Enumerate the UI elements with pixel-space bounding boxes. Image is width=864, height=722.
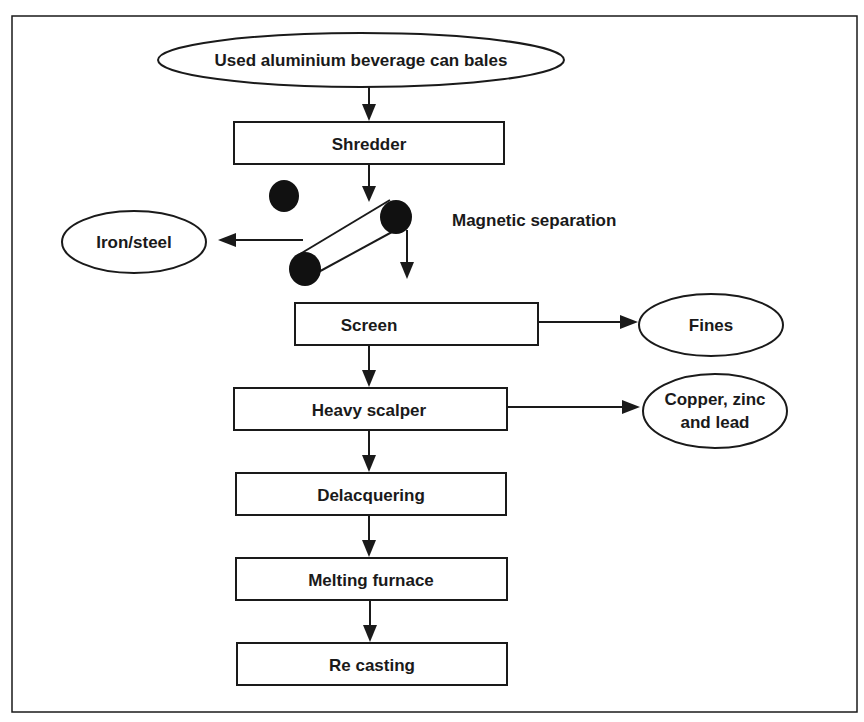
node-iron-label: Iron/steel — [96, 233, 172, 252]
magnetic-separation-label: Magnetic separation — [452, 211, 616, 230]
node-screen: Screen — [295, 303, 538, 345]
flowchart-canvas: Used aluminium beverage can bales Shredd… — [0, 0, 864, 722]
node-copper-label-line2: and lead — [681, 413, 750, 432]
node-shredder-label: Shredder — [332, 135, 407, 154]
node-input-bales: Used aluminium beverage can bales — [158, 33, 564, 87]
node-screen-label: Screen — [341, 316, 398, 335]
magnet-drum-icon — [269, 180, 299, 212]
node-heavy-scalper: Heavy scalper — [234, 388, 507, 430]
node-recasting: Re casting — [237, 643, 507, 685]
node-delacquering: Delacquering — [236, 473, 506, 515]
node-copper-zinc-lead: Copper, zinc and lead — [643, 374, 787, 448]
node-recasting-label: Re casting — [329, 656, 415, 675]
node-iron-steel: Iron/steel — [62, 211, 206, 273]
node-melting-furnace: Melting furnace — [236, 558, 507, 600]
node-scalper-label: Heavy scalper — [312, 401, 427, 420]
node-furnace-label: Melting furnace — [308, 571, 434, 590]
node-fines: Fines — [639, 294, 783, 356]
node-input-label: Used aluminium beverage can bales — [215, 51, 508, 70]
conveyor-pulley-icon — [380, 200, 412, 234]
conveyor-pulley-icon — [289, 252, 321, 286]
node-delacquering-label: Delacquering — [317, 486, 425, 505]
diagram-frame — [12, 16, 857, 712]
node-shredder: Shredder — [234, 122, 504, 164]
node-copper-label-line1: Copper, zinc — [664, 390, 765, 409]
node-fines-label: Fines — [689, 316, 733, 335]
